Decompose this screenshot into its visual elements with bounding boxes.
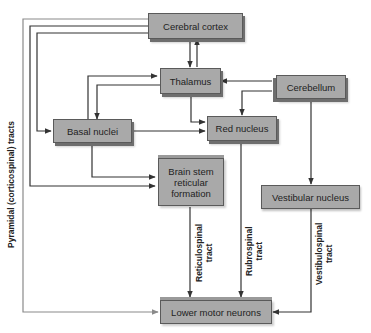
thalamus-to-basal-line	[97, 85, 160, 119]
brain-stem-label-line2: reticular	[174, 177, 208, 188]
basal-to-thalamus-line	[88, 76, 157, 119]
node-vestibular-nucleus: Vestibular nucleus	[261, 185, 360, 209]
brain-stem-label-line3: formation	[171, 188, 211, 199]
basal-to-brainstem-line	[92, 143, 155, 177]
basal-nuclei-label: Basal nuclei	[67, 126, 118, 137]
cerebral-cortex-label: Cerebral cortex	[163, 21, 228, 32]
pyramidal-tract-label: Pyramidal (corticospinal) tracts	[6, 121, 16, 248]
rubrospinal-tract-label: Rubrospinal tract	[244, 226, 264, 276]
reticulospinal-tract-label: Reticulospinal tract	[194, 224, 214, 282]
vestibulospinal-tract-label: Vestibulospinal tract	[314, 223, 334, 285]
lower-motor-neurons-label: Lower motor neurons	[171, 307, 261, 318]
node-red-nucleus: Red nucleus	[207, 116, 277, 141]
node-cerebellum: Cerebellum	[276, 75, 346, 99]
thalamus-label: Thalamus	[170, 76, 212, 87]
red-nucleus-label: Red nucleus	[216, 123, 269, 134]
node-brain-stem-reticular-formation: Brain stem reticular formation	[158, 158, 224, 206]
thalamus-to-red-line	[191, 94, 205, 122]
cerebellum-label: Cerebellum	[287, 82, 336, 93]
motor-pathways-diagram: Cerebral cortex Thalamus Cerebellum Basa…	[0, 0, 371, 333]
cortex-to-basal-line	[37, 33, 148, 131]
node-lower-motor-neurons: Lower motor neurons	[160, 300, 272, 324]
vestibular-nucleus-label: Vestibular nucleus	[272, 192, 349, 203]
node-basal-nuclei: Basal nuclei	[53, 119, 132, 143]
pyramidal-tract-line	[23, 19, 158, 312]
brain-stem-label-line1: Brain stem	[168, 166, 213, 177]
vestibulospinal-line	[273, 209, 311, 312]
node-thalamus: Thalamus	[160, 68, 221, 94]
node-cerebral-cortex: Cerebral cortex	[148, 13, 243, 39]
cerebellum-to-red-line	[242, 91, 272, 115]
